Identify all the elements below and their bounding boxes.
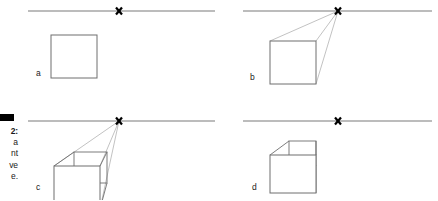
panel-d: d <box>243 118 432 194</box>
panel-a: a <box>28 8 215 79</box>
connecting-edge-1 <box>270 141 289 155</box>
perspective-construction-figure: abcd <box>0 0 438 200</box>
panel-label-c: c <box>36 182 41 192</box>
front-square <box>270 155 316 193</box>
front-square <box>51 35 97 78</box>
panel-label-b: b <box>250 72 255 82</box>
connecting-edge-1 <box>54 152 74 166</box>
connecting-edge-2 <box>100 152 107 166</box>
panel-label-d: d <box>252 182 257 192</box>
front-square <box>270 41 316 84</box>
panel-c: c <box>28 118 215 201</box>
panel-b: b <box>243 8 432 85</box>
construction-line-1 <box>270 11 338 41</box>
front-square <box>54 166 100 200</box>
panel-label-a: a <box>36 68 41 78</box>
construction-line-3 <box>316 11 338 84</box>
